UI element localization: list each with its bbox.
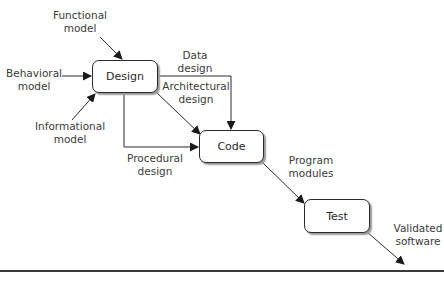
- validated-software-label: Validated software: [394, 222, 443, 248]
- architectural-design-label-line2: design: [162, 93, 229, 106]
- data-design-label-line1: Data: [178, 49, 213, 62]
- data-design-label: Data design: [178, 49, 213, 75]
- program-modules-label-line2: modules: [289, 167, 334, 180]
- functional-model-label-line1: Functional: [53, 9, 107, 22]
- validated-software-label-line2: software: [394, 235, 443, 248]
- program-modules-label: Program modules: [289, 154, 334, 180]
- design-node-label: Design: [106, 70, 144, 83]
- informational-model-label-line1: Informational: [35, 120, 105, 133]
- functional-model-arrow: [100, 37, 122, 59]
- design-flow-diagram: Design Code Test Functional model Behavi…: [0, 0, 444, 283]
- design-node: Design: [92, 60, 158, 93]
- functional-model-label-line2: model: [53, 22, 107, 35]
- code-node-label: Code: [217, 140, 245, 153]
- code-node: Code: [199, 130, 264, 163]
- validated-software-label-line1: Validated: [394, 222, 443, 235]
- behavioral-model-label-line2: model: [6, 80, 62, 93]
- informational-model-label: Informational model: [35, 120, 105, 146]
- test-node-label: Test: [326, 210, 348, 223]
- behavioral-model-label-line1: Behavioral: [6, 67, 62, 80]
- procedural-design-label-line1: Procedural: [127, 152, 183, 165]
- architectural-design-label: Architectural design: [162, 80, 229, 106]
- functional-model-label: Functional model: [53, 9, 107, 35]
- test-node: Test: [304, 199, 370, 233]
- architectural-design-label-line1: Architectural: [162, 80, 229, 93]
- program-modules-label-line1: Program: [289, 154, 334, 167]
- procedural-design-label-line2: design: [127, 165, 183, 178]
- procedural-design-label: Procedural design: [127, 152, 183, 178]
- informational-model-label-line2: model: [35, 133, 105, 146]
- caption-divider: [0, 270, 444, 272]
- data-design-label-line2: design: [178, 62, 213, 75]
- informational-model-arrow: [72, 94, 95, 120]
- behavioral-model-label: Behavioral model: [6, 67, 62, 93]
